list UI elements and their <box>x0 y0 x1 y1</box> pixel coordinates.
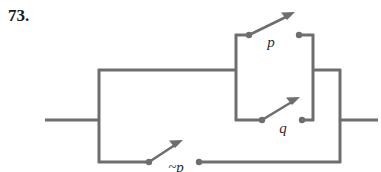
figure-container: 73. <box>0 0 381 172</box>
switch-q[interactable]: q <box>259 97 305 136</box>
switch-q-right-terminal-dot <box>299 117 305 123</box>
switching-circuit-diagram: p q ~p <box>0 0 381 172</box>
switch-p-right-terminal-dot <box>296 32 302 38</box>
switch-p-lever-arm <box>249 15 290 35</box>
switch-not-p[interactable]: ~p <box>146 140 202 172</box>
switch-q-lever-arm <box>262 100 295 120</box>
switch-p[interactable]: p <box>246 12 302 50</box>
switch-not-p-label: ~p <box>168 159 184 172</box>
switch-q-label: q <box>279 120 287 136</box>
switch-not-p-right-terminal-dot <box>196 159 202 165</box>
switch-p-label: p <box>266 34 275 50</box>
